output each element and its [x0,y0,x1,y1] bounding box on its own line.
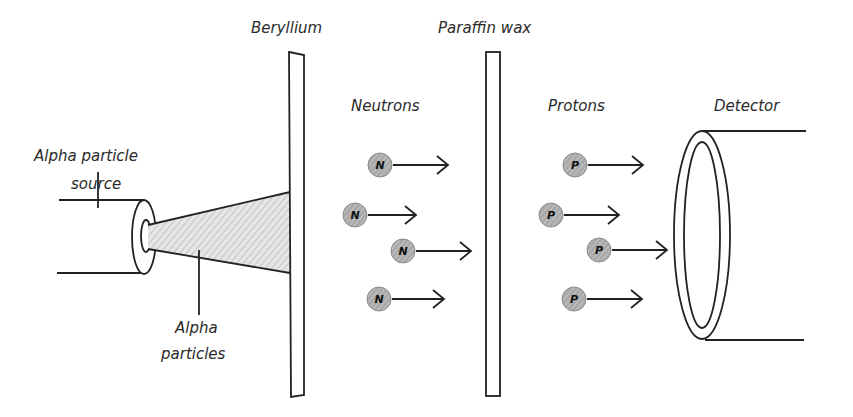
arrow-right-icon [368,206,416,224]
label-neutrons: Neutrons [351,97,420,115]
proton-particle: P [587,238,667,262]
proton-symbol: P [570,293,578,306]
neutron-particle: N [367,287,444,311]
proton-particle: P [539,203,619,227]
arrow-right-icon [392,290,444,308]
neutron-particle: N [343,203,416,227]
proton-symbol: P [595,244,603,257]
proton-particle: P [563,153,643,177]
arrow-right-icon [564,206,619,224]
arrow-right-icon [587,290,642,308]
label-beryllium: Beryllium [251,19,322,37]
proton-particle: P [562,287,642,311]
label-alpha-line1: Alpha [174,319,218,337]
neutron-symbol: N [350,209,359,222]
paraffin-plate [486,52,500,396]
neutron-symbol: N [374,293,383,306]
neutron-symbol: N [375,159,384,172]
label-alpha-line2: particles [160,345,226,363]
neutron-particle: N [391,239,471,263]
label-source-line1: Alpha particle [33,147,138,165]
arrow-right-icon [612,241,667,259]
label-protons: Protons [548,97,605,115]
neutron-discovery-diagram: NNNN PPPP Alpha particle source Berylliu… [0,0,853,417]
neutron-symbol: N [398,245,407,258]
label-detector: Detector [714,97,780,115]
neutron-particle: N [368,153,448,177]
neutron-group: NNNN [343,153,471,311]
arrow-right-icon [588,156,643,174]
label-paraffin-wax: Paraffin wax [438,19,531,37]
proton-symbol: P [547,209,555,222]
beryllium-plate [289,52,304,397]
arrow-right-icon [393,156,448,174]
proton-symbol: P [571,159,579,172]
label-source-line2: source [71,175,121,193]
detector [674,131,806,340]
arrow-right-icon [416,242,471,260]
alpha-beam [148,192,290,315]
proton-group: PPPP [539,153,667,311]
